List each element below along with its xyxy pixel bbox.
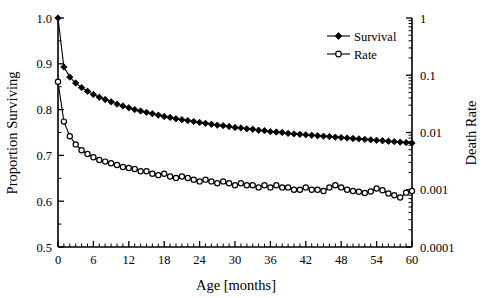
data-point-marker [267,128,273,134]
data-point-marker [232,124,238,130]
data-point-marker [238,125,244,131]
data-point-marker [274,183,279,188]
data-point-marker [309,187,314,192]
y-right-tick-label: 0.1 [420,69,436,83]
y-left-tick-label: 0.7 [36,149,52,163]
data-point-marker [339,185,344,190]
data-point-marker [232,183,237,188]
data-point-marker [379,138,385,144]
data-point-marker [161,113,167,119]
data-point-marker [149,111,155,117]
data-point-marker [398,195,403,200]
data-point-marker [150,171,155,176]
data-point-marker [109,161,114,166]
data-point-marker [114,162,119,167]
data-point-marker [362,190,367,195]
x-tick-label: 36 [264,253,277,267]
data-point-marker [220,122,226,128]
data-point-marker [320,133,326,139]
y-left-tick-label: 0.9 [36,57,52,71]
chart-container: 061218243036424854600.50.60.70.80.91.00.… [0,0,491,298]
data-point-marker [285,130,291,136]
data-point-marker [244,183,249,188]
data-point-marker [291,131,297,137]
data-point-marker [356,189,361,194]
y-axis-title: Proportion Surviving [4,72,20,195]
y-right-tick-label: 0.01 [420,126,442,140]
x-tick-label: 6 [90,253,96,267]
x-tick-label: 42 [300,253,313,267]
data-point-marker [244,126,250,132]
data-point-marker [374,186,379,191]
data-point-marker [404,190,409,195]
data-point-marker [262,183,267,188]
x-tick-label: 12 [123,253,136,267]
data-point-marker [373,137,379,143]
data-point-marker [256,185,261,190]
data-point-marker [385,138,391,144]
data-point-marker [185,117,191,123]
y2-axis-title: Death Rate [463,101,479,166]
data-point-marker [238,181,243,186]
data-point-marker [120,103,126,109]
data-point-marker [297,187,302,192]
data-point-marker [203,177,208,182]
data-point-marker [303,132,309,138]
data-point-marker [368,137,374,143]
data-point-marker [179,174,184,179]
y-left-tick-label: 0.8 [36,103,52,117]
data-point-marker [250,183,255,188]
data-point-marker [226,123,232,129]
data-point-marker [90,91,96,97]
data-point-marker [191,118,197,124]
data-point-marker [132,166,137,171]
data-point-marker [191,177,196,182]
data-point-marker [126,105,132,111]
data-point-marker [303,185,308,190]
data-point-marker [291,187,296,192]
data-point-marker [196,119,202,125]
legend-label: Rate [354,48,377,62]
data-point-marker [315,187,320,192]
data-point-marker [155,112,161,118]
data-point-marker [120,164,125,169]
data-point-marker [314,133,320,139]
tick-labels-group: 061218243036424854600.50.60.70.80.91.00.… [36,12,454,268]
data-point-marker [173,175,178,180]
data-point-marker [126,165,131,170]
data-point-marker [61,119,66,124]
data-point-marker [103,159,108,164]
data-point-marker [132,106,138,112]
data-point-marker [144,169,149,174]
data-point-marker [197,179,202,184]
data-point-marker [397,139,403,145]
data-point-marker [209,179,214,184]
data-point-marker [250,126,256,132]
data-point-marker [79,148,84,153]
data-point-marker [67,134,72,139]
y-left-tick-label: 1.0 [36,12,52,26]
x-tick-label: 24 [193,253,206,267]
data-point-marker [138,169,143,174]
data-point-marker [362,136,368,142]
data-point-marker [386,191,391,196]
data-point-marker [214,122,220,128]
data-point-marker [380,188,385,193]
x-tick-label: 0 [55,253,61,267]
data-point-marker [344,135,350,141]
data-point-marker [327,185,332,190]
x-tick-label: 30 [229,253,242,267]
data-point-marker [179,116,185,122]
legend-label: Survival [354,30,397,44]
data-point-marker [185,175,190,180]
data-point-marker [137,108,143,114]
data-point-marker [208,121,214,127]
data-point-marker [279,129,285,135]
data-point-marker [356,136,362,142]
data-point-marker [173,116,179,122]
x-tick-label: 60 [406,253,419,267]
data-point-marker [403,139,409,145]
data-point-marker [156,173,161,178]
data-point-marker [286,185,291,190]
data-point-marker [309,132,315,138]
